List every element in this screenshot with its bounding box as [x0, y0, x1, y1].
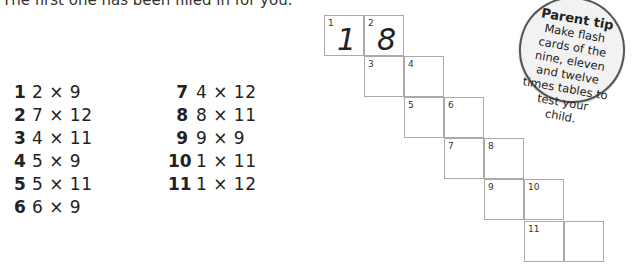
question-11: 111 × 12	[168, 174, 257, 194]
grid-cell-2[interactable]: 28	[364, 15, 404, 56]
grid-cell-7[interactable]: 7	[444, 138, 484, 179]
grid-cell-10[interactable]: 10	[524, 179, 564, 220]
question-5: 55 × 11	[14, 174, 93, 194]
grid-cell-11[interactable]: 11	[524, 221, 564, 262]
question-9: 99 × 9	[168, 128, 245, 148]
grid-cell-12[interactable]	[564, 221, 604, 262]
parent-tip-badge: Parent tip Make flash cards of the nine,…	[511, 0, 634, 111]
grid-cell-4[interactable]: 4	[404, 56, 444, 97]
grid-cell-9[interactable]: 9	[484, 179, 524, 220]
grid-cell-3[interactable]: 3	[364, 56, 404, 97]
question-6: 66 × 9	[14, 197, 81, 217]
grid-cell-8[interactable]: 8	[484, 138, 524, 179]
grid-cell-6[interactable]: 6	[444, 97, 484, 138]
question-7: 74 × 12	[168, 82, 257, 102]
grid-cell-1[interactable]: 11	[324, 15, 364, 56]
question-3: 34 × 11	[14, 128, 93, 148]
question-2: 27 × 12	[14, 105, 93, 125]
grid-cell-5[interactable]: 5	[404, 97, 444, 138]
question-4: 45 × 9	[14, 151, 81, 171]
instruction-text: The first one has been filled in for you…	[2, 0, 292, 9]
parent-tip-body: Make flash cards of the nine, eleven and…	[509, 18, 626, 132]
question-1: 12 × 9	[14, 82, 81, 102]
question-10: 101 × 11	[168, 151, 257, 171]
question-8: 88 × 11	[168, 105, 257, 125]
